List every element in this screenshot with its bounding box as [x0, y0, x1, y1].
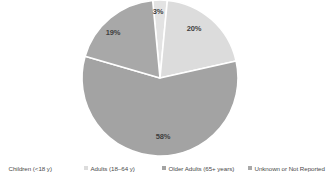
legend-item-children[interactable]: Children (<18 y) — [2, 165, 52, 172]
legend-label-adults: Adults (18–64 y) — [91, 165, 135, 172]
legend-label-children: Children (<18 y) — [9, 165, 52, 172]
legend-label-older-adults: Older Adults (65+ years) — [169, 165, 235, 172]
legend-swatch-icon — [84, 166, 88, 170]
chart-legend: Children (<18 y) Adults (18–64 y) Older … — [0, 160, 326, 176]
legend-item-adults[interactable]: Adults (18–64 y) — [84, 165, 135, 172]
legend-label-unknown: Unknown or Not Reported — [255, 165, 325, 172]
pie-chart: 3% 20% 58% 19% Children (<18 y) Adults (… — [0, 0, 326, 177]
legend-swatch-icon — [248, 166, 252, 170]
legend-item-older-adults[interactable]: Older Adults (65+ years) — [162, 165, 234, 172]
pie-slice-group — [82, 0, 238, 156]
legend-swatch-icon — [162, 166, 166, 170]
pie-plot-area: 3% 20% 58% 19% — [0, 0, 326, 158]
pie-svg — [0, 0, 326, 158]
legend-item-unknown[interactable]: Unknown or Not Reported — [248, 165, 325, 172]
